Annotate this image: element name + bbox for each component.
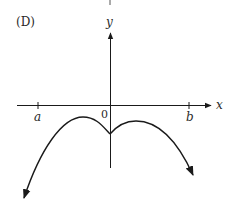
figure-label: (D) bbox=[16, 15, 35, 29]
origin-label: 0 bbox=[101, 108, 108, 121]
tick-label-a: a bbox=[34, 110, 41, 124]
y-axis-label: y bbox=[105, 15, 113, 29]
function-curve bbox=[24, 117, 110, 198]
function-curve-right bbox=[110, 121, 193, 175]
graph-figure: (D) y x 0 a b bbox=[0, 0, 237, 217]
x-axis-label: x bbox=[216, 98, 223, 112]
tick-label-b: b bbox=[186, 110, 194, 124]
